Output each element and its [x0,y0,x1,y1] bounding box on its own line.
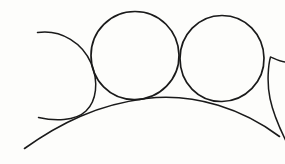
canvas-background [0,0,285,164]
tangent-circles-diagram: Hand-drawn geometric sketch of tangent c… [0,0,285,164]
figure-canvas: Hand-drawn geometric sketch of tangent c… [0,0,285,164]
